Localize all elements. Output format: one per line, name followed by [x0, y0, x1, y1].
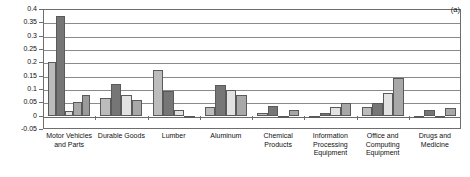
x-axis-label-line: Medicine [409, 141, 461, 150]
gridline [44, 117, 460, 118]
y-tick-label: 0.35 [23, 18, 37, 25]
x-axis-label: Drugs andMedicine [409, 132, 461, 149]
x-axis-labels: Motor Vehiclesand PartsDurable GoodsLumb… [43, 131, 461, 177]
x-axis-label-line: Products [252, 141, 304, 150]
x-axis-label-line: Lumber [148, 132, 200, 141]
x-axis-label-line: Aluminum [200, 132, 252, 141]
x-axis-label-line: Equipment [304, 149, 356, 158]
x-axis-label-line: Office and [357, 132, 409, 141]
x-axis-label-line: Computing [357, 141, 409, 150]
bar-chart: 0.40.350.30.250.20.150.10.050-0.05 Motor… [0, 0, 470, 177]
gridline [44, 37, 460, 38]
y-tick-label: 0.15 [23, 72, 37, 79]
x-axis-label-line: Equipment [357, 149, 409, 158]
y-tick-label: -0.05 [21, 125, 37, 132]
gridline [44, 63, 460, 64]
x-axis-label: Aluminum [200, 132, 252, 141]
x-axis-label-line: Processing [304, 141, 356, 150]
x-axis-label: Office andComputingEquipment [357, 132, 409, 158]
y-tick-label: 0.25 [23, 45, 37, 52]
x-axis-label: Motor Vehiclesand Parts [43, 132, 95, 149]
y-tick-label: 0 [33, 112, 37, 119]
gridline [44, 77, 460, 78]
gridline [44, 103, 460, 104]
x-axis-label-line: Motor Vehicles [43, 132, 95, 141]
x-axis-label: InformationProcessingEquipment [304, 132, 356, 158]
gridline [44, 90, 460, 91]
y-tick-mark [39, 129, 43, 130]
x-axis-label-line: and Parts [43, 141, 95, 150]
y-tick-label: 0.05 [23, 98, 37, 105]
x-axis-label: Durable Goods [95, 132, 147, 141]
gridline [44, 50, 460, 51]
y-axis: 0.40.350.30.250.20.150.10.050-0.05 [0, 0, 43, 140]
x-axis-label-line: Information [304, 132, 356, 141]
plot-area [43, 9, 461, 129]
x-axis-label-line: Drugs and [409, 132, 461, 141]
x-axis-label-line: Durable Goods [95, 132, 147, 141]
x-axis-label-line: Chemical [252, 132, 304, 141]
x-axis-label: ChemicalProducts [252, 132, 304, 149]
gridline [44, 23, 460, 24]
x-axis-label: Lumber [148, 132, 200, 141]
y-tick-label: 0.3 [27, 32, 37, 39]
y-tick-label: 0.1 [27, 85, 37, 92]
y-tick-label: 0.4 [27, 5, 37, 12]
panel-annotation: (a) [451, 5, 460, 14]
y-tick-label: 0.2 [27, 58, 37, 65]
